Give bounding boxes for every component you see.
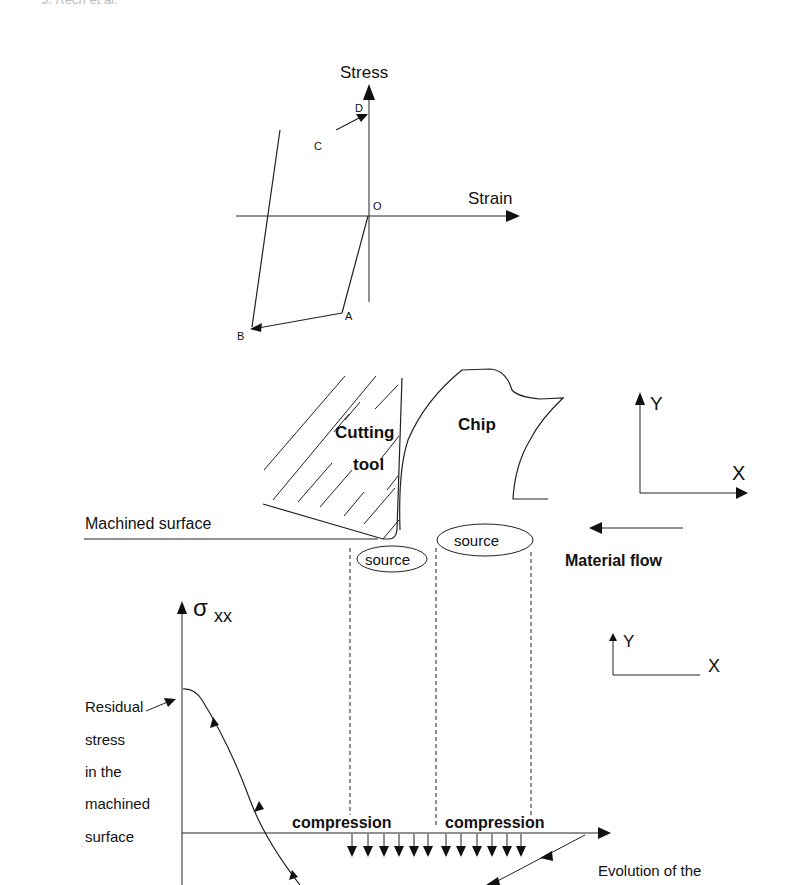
evolution-curve [490,835,585,885]
compression-right-label: compression [445,814,545,831]
machined-surface-label: Machined surface [85,515,211,532]
evolution-annotation: Evolution of the [598,862,701,879]
upper-y-axis-label: Y [650,393,663,414]
upper-x-axis-arrow-icon [736,487,748,499]
path-c-d [336,117,361,130]
material-flow-label: Material flow [565,552,662,569]
evolution-arrow-1-icon [540,851,553,861]
lower-y-axis-arrow-icon [609,633,617,641]
strain-axis-label: Strain [468,189,512,208]
path-b-c [252,130,280,327]
lower-y-axis-label: Y [623,632,634,651]
upper-x-axis-label: X [732,462,745,484]
residual-annotation-line4: machined [85,795,150,812]
running-head: J. Rech et al. [41,0,118,7]
point-o-label: O [373,200,382,212]
material-flow-arrow-icon [589,522,602,534]
stress-strain-diagram: Stress Strain O A B C D [236,63,520,342]
sigma-axis-subscript: xx [214,606,232,626]
lower-x-axis-label: X [708,656,720,676]
source-left-label: source [365,551,410,568]
residual-annotation-line1: Residual [85,698,143,715]
evolution-arrow-2-icon [486,877,500,885]
figure-canvas: J. Rech et al. Stress Strain O A B C D M… [0,0,785,885]
residual-stress-curve [183,689,300,885]
projection-lines [350,548,531,825]
point-b-label: B [237,330,244,342]
residual-annotation-line3: in the [85,763,122,780]
strain-axis-arrow-icon [506,210,520,222]
point-d-label: D [355,102,363,114]
stress-axis-label: Stress [340,63,388,82]
compression-arrows [347,834,526,857]
path-a-b [258,313,342,328]
cutting-tool-label-line1: Cutting [335,423,394,442]
compression-left-label: compression [292,814,392,831]
path-o-a [342,216,368,313]
upper-y-axis-arrow-icon [635,392,645,405]
residual-annotation-line5: surface [85,828,134,845]
sigma-axis-arrow-icon [177,601,187,614]
chip-outline [400,369,563,530]
cutting-tool-label-line2: tool [353,455,384,474]
curve-arrow-2-icon [254,801,264,812]
point-a-label: A [345,310,353,322]
residual-stress-plot: σ xx Residual stress in the machined sur… [85,594,720,885]
cutting-diagram: Machined surface Cutting tool Chip sourc… [84,369,748,572]
chip-label: Chip [458,415,496,434]
sigma-axis-symbol: σ [193,594,208,621]
stress-x-axis-arrow-icon [598,827,611,839]
point-c-label: C [314,140,322,152]
source-right-label: source [454,532,499,549]
stress-axis-arrow-icon [363,84,375,100]
residual-annotation-line2: stress [85,731,125,748]
